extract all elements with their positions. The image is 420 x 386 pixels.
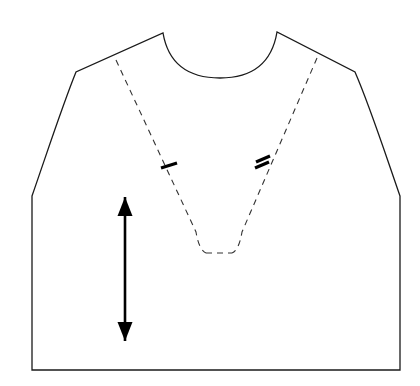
pattern-diagram-canvas — [0, 0, 420, 386]
bodice-outline — [32, 32, 400, 370]
pattern-drawing — [0, 0, 420, 386]
